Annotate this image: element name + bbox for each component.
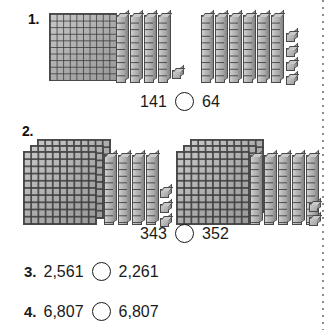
comparison-right-value: 352 — [202, 226, 229, 242]
ten-rod — [144, 15, 154, 83]
unit-cube — [309, 203, 318, 212]
comparison-right-value: 6,807 — [119, 304, 159, 320]
worksheet-page: 1. 141 64 2. — [0, 0, 336, 330]
hundred-flat — [23, 151, 97, 225]
ten-rod — [243, 15, 253, 83]
unit-cube — [286, 33, 295, 42]
unit-cube — [160, 204, 169, 213]
ten-rod — [201, 15, 211, 83]
ten-rod — [132, 155, 142, 225]
dotted-vertical-rule — [322, 0, 324, 330]
problem-number-3: 3. — [24, 264, 37, 279]
comparison-right-value: 2,261 — [119, 264, 159, 280]
problem-number-2: 2. — [22, 124, 33, 138]
problem-number-1: 1. — [28, 12, 39, 26]
ten-rod — [104, 155, 114, 225]
ten-rod — [116, 15, 126, 83]
ten-rod — [215, 15, 225, 83]
comparison-statement-1: 141 64 — [140, 92, 220, 111]
unit-cube — [286, 62, 295, 71]
comparison-answer-circle[interactable] — [92, 302, 111, 321]
unit-cube — [309, 217, 318, 226]
hundred-flat — [176, 151, 250, 225]
ten-rod — [146, 155, 156, 225]
ten-rod — [292, 155, 302, 225]
comparison-answer-circle[interactable] — [175, 92, 194, 111]
unit-cube — [286, 76, 295, 85]
unit-cube — [160, 189, 169, 198]
unit-cube — [286, 48, 295, 57]
ten-rod — [130, 15, 140, 83]
unit-cube — [172, 70, 181, 79]
comparison-left-value: 343 — [140, 226, 167, 242]
ten-rod — [271, 15, 281, 83]
ten-rod — [158, 15, 168, 83]
comparison-statement-4: 4. 6,807 6,807 — [24, 302, 159, 321]
comparison-statement-2: 343 352 — [140, 224, 229, 243]
ten-rod — [118, 155, 128, 225]
ten-rod — [250, 155, 260, 225]
comparison-answer-circle[interactable] — [92, 262, 111, 281]
ten-rod — [257, 15, 267, 83]
ten-rod — [264, 155, 274, 225]
problem-number-4: 4. — [24, 304, 37, 319]
ten-rod — [229, 15, 239, 83]
comparison-left-value: 2,561 — [44, 264, 84, 280]
comparison-answer-circle[interactable] — [175, 224, 194, 243]
comparison-statement-3: 3. 2,561 2,261 — [24, 262, 159, 281]
comparison-right-value: 64 — [202, 94, 220, 110]
hundred-flat — [49, 13, 117, 81]
ten-rod — [278, 155, 288, 225]
comparison-left-value: 141 — [140, 94, 167, 110]
comparison-left-value: 6,807 — [44, 304, 84, 320]
